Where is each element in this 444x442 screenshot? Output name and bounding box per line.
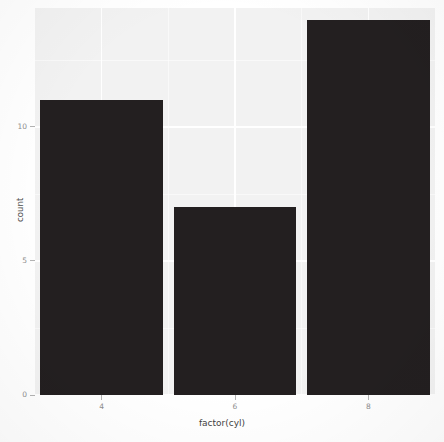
x-axis-tick-label: 4 [82,402,122,412]
x-axis-tick-label: 6 [215,402,255,412]
x-axis-title: factor(cyl) [0,418,444,428]
y-axis-tick-mark [30,395,35,396]
x-axis-tick-mark [368,395,369,400]
bar-8 [307,20,430,395]
x-axis-tick: 6 [215,395,255,412]
bar-chart-plot: 0510 count 468 factor(cyl) [0,0,444,442]
y-axis-tick-mark [30,126,35,127]
gridline-minor-vertical [301,8,302,395]
bar-6 [174,207,297,395]
y-axis-tick: 5 [0,255,35,267]
plot-panel [35,8,435,395]
y-axis-tick: 10 [0,121,35,133]
y-axis-tick-label: 5 [22,255,30,267]
x-axis-tick-label: 8 [348,402,388,412]
y-axis-tick-mark [30,260,35,261]
x-axis-tick-mark [101,395,102,400]
x-axis-tick: 8 [348,395,388,412]
y-axis-tick: 0 [0,389,35,401]
gridline-minor-vertical [168,8,169,395]
y-axis-tick-label: 0 [22,389,30,401]
y-axis-tick-label: 10 [17,121,30,133]
x-axis-tick: 4 [82,395,122,412]
x-axis-tick-mark [235,395,236,400]
bar-4 [40,100,163,395]
y-axis-title: count [12,180,28,240]
